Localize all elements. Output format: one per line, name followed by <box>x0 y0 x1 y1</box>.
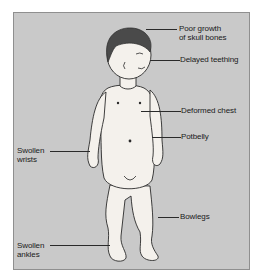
label-swollen-wrists: Swollen wrists <box>17 146 44 164</box>
teething-leader-line <box>150 60 180 61</box>
ankles-leader-line <box>50 245 110 246</box>
chest-leader-line <box>141 111 181 112</box>
label-deformed-chest: Deformed chest <box>181 106 236 115</box>
potbelly-leader-line <box>152 137 181 138</box>
label-bowlegs: Bowlegs <box>180 212 210 221</box>
label-potbelly: Potbelly <box>181 132 209 141</box>
wrists-leader-line <box>50 151 90 152</box>
label-delayed-teething: Delayed teething <box>180 55 238 64</box>
label-poor-growth-skull-bones: Poor growth of skull bones <box>179 24 227 42</box>
bowlegs-leader-line <box>158 217 179 218</box>
label-swollen-ankles: Swollen ankles <box>17 241 44 259</box>
skull-leader-line <box>146 29 177 30</box>
